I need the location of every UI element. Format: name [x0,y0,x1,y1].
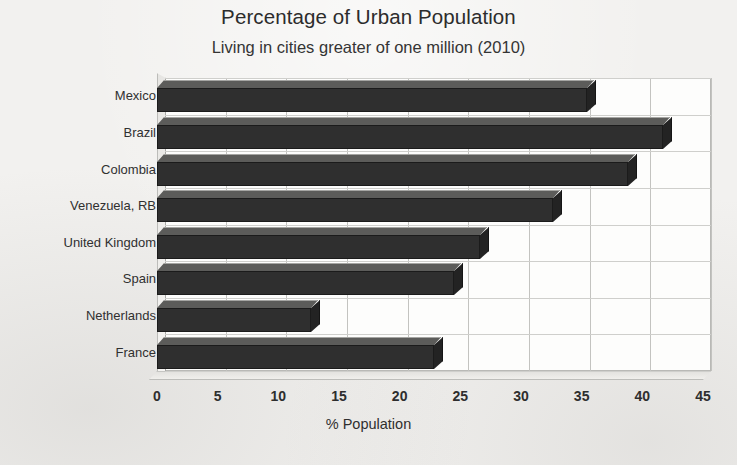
bar-front-face [157,345,434,369]
bar-top-face [157,227,487,235]
x-tick-25: 25 [440,388,480,404]
y-axis-label-1: Brazil [123,125,156,140]
bar-top-face [157,300,318,308]
bar-top-face [157,190,560,198]
y-axis-label-2: Colombia [101,162,156,177]
x-tick-30: 30 [501,388,541,404]
bar-front-face [157,308,311,332]
bar-united-kingdom [157,235,480,259]
x-tick-10: 10 [258,388,298,404]
bar-top-face [157,337,441,345]
y-axis-label-0: Mexico [115,88,156,103]
x-tick-15: 15 [319,388,359,404]
bar-spain [157,271,454,295]
y-axis-label-5: Spain [123,271,156,286]
bar-brazil [157,125,663,149]
x-tick-0: 0 [137,388,177,404]
bar-top-face [157,80,594,88]
x-tick-5: 5 [198,388,238,404]
y-axis-label-6: Netherlands [86,308,156,323]
bar-front-face [157,235,480,259]
bar-chart: Percentage of Urban Population Living in… [0,0,737,465]
x-tick-40: 40 [622,388,662,404]
plot-area: MexicoBrazilColombiaVenezuela, RBUnited … [0,0,737,465]
bar-top-face [157,263,461,271]
bar-front-face [157,125,663,149]
bar-front-face [157,198,553,222]
y-axis-label-3: Venezuela, RB [70,198,156,213]
bar-netherlands [157,308,311,332]
x-tick-35: 35 [562,388,602,404]
bar-top-face [157,117,670,125]
y-axis-label-4: United Kingdom [64,235,157,250]
bar-front-face [157,88,587,112]
bar-side-face [454,263,463,295]
bar-front-face [157,162,628,186]
bar-colombia [157,162,628,186]
bar-top-face [157,154,635,162]
bar-front-face [157,271,454,295]
bar-venezuela-rb [157,198,553,222]
x-axis-title: % Population [0,416,737,432]
x-tick-20: 20 [380,388,420,404]
x-tick-45: 45 [683,388,723,404]
bar-france [157,345,434,369]
y-axis-label-7: France [116,345,156,360]
bar-mexico [157,88,587,112]
